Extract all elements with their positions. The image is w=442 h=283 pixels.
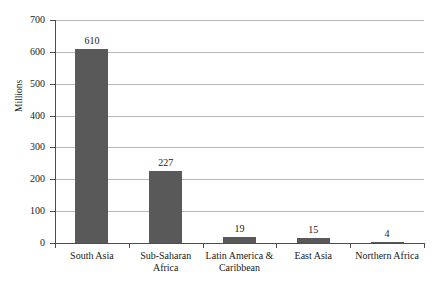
bar-chart: Millions 0100200300400500600700 61022719… [0, 0, 442, 283]
y-axis-tick-label: 500 [0, 79, 45, 89]
plot-area: 61022719154 [55, 20, 424, 243]
x-axis-category-label-line: Northern Africa [341, 250, 433, 262]
y-axis-tick-label: 100 [0, 206, 45, 216]
bar [149, 171, 182, 243]
x-axis-tick [350, 243, 351, 248]
x-axis-category-label: Northern Africa [341, 250, 433, 262]
y-axis-tick-label: 300 [0, 142, 45, 152]
y-axis-tick-label: 600 [0, 47, 45, 57]
bar-value-label: 4 [357, 229, 417, 239]
x-axis-line [55, 243, 425, 244]
x-axis-tick [55, 243, 56, 248]
bar-value-label: 610 [62, 36, 122, 46]
x-axis-tick [203, 243, 204, 248]
bar [371, 242, 404, 244]
x-axis-tick [129, 243, 130, 248]
bar [297, 238, 330, 243]
y-axis-tick-label: 200 [0, 174, 45, 184]
x-axis-tick [276, 243, 277, 248]
y-axis-tick-label: 400 [0, 111, 45, 121]
bar-value-label: 19 [210, 224, 270, 234]
x-axis-category-label-line: Caribbean [194, 262, 286, 274]
bar [223, 237, 256, 243]
y-axis-tick-label: 0 [0, 238, 45, 248]
y-axis-tick-label: 700 [0, 15, 45, 25]
x-axis-tick [424, 243, 425, 248]
bar-value-label: 227 [136, 158, 196, 168]
bar [75, 49, 108, 243]
bar-value-label: 15 [283, 225, 343, 235]
